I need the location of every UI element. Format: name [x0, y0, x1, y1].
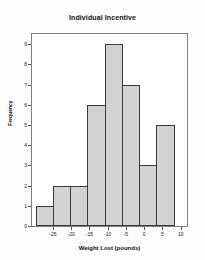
- y-tick-label: 1: [24, 203, 27, 209]
- x-tick-mark: [53, 227, 54, 230]
- histogram-bar: [36, 206, 54, 226]
- x-tick-label: -15: [82, 231, 96, 237]
- x-tick-label: 10: [174, 231, 188, 237]
- y-tick-label: 2: [24, 183, 27, 189]
- x-tick-label: -25: [46, 231, 60, 237]
- histogram-bar: [53, 186, 71, 226]
- x-tick-mark: [162, 227, 163, 230]
- x-tick-mark: [181, 227, 182, 230]
- y-tick-label: 3: [24, 162, 27, 168]
- y-tick-label: 5: [24, 122, 27, 128]
- x-tick-mark: [89, 227, 90, 230]
- histogram-figure: Individual Incentive Frequency 012345678…: [0, 0, 205, 260]
- x-tick-mark: [108, 227, 109, 230]
- histogram-bar: [156, 125, 174, 226]
- y-tick-label: 0: [24, 223, 27, 229]
- histogram-bar: [139, 165, 157, 226]
- x-tick-label: 5: [155, 231, 169, 237]
- histogram-bar: [122, 85, 140, 226]
- plot-area: [31, 33, 188, 227]
- bar-series: [32, 34, 187, 226]
- histogram-bar: [70, 186, 88, 226]
- y-tick-label: 9: [24, 41, 27, 47]
- histogram-bar: [87, 105, 105, 226]
- x-tick-label: -5: [119, 231, 133, 237]
- y-tick-label: 4: [24, 142, 27, 148]
- x-axis-ticks: -25-20-15-10-50510: [31, 227, 188, 243]
- y-tick-label: 8: [24, 61, 27, 67]
- x-tick-mark: [71, 227, 72, 230]
- x-tick-label: -10: [101, 231, 115, 237]
- x-tick-label: -20: [64, 231, 78, 237]
- y-tick-label: 7: [24, 82, 27, 88]
- y-tick-label: 6: [24, 102, 27, 108]
- x-tick-label: 0: [137, 231, 151, 237]
- x-axis-label: Weight Lost (pounds): [31, 245, 188, 251]
- x-tick-mark: [144, 227, 145, 230]
- histogram-bar: [105, 44, 123, 226]
- x-tick-mark: [126, 227, 127, 230]
- y-axis-ticks: 0123456789: [0, 33, 31, 227]
- chart-title: Individual Incentive: [0, 14, 205, 21]
